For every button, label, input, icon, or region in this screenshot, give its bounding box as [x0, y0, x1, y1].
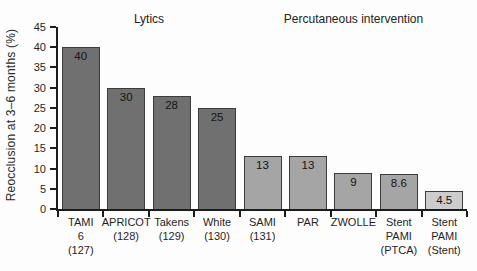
bar-value-label: 30	[108, 91, 144, 104]
bar: 25	[198, 108, 236, 209]
y-tick	[50, 26, 56, 28]
y-tick-label: 15	[16, 142, 46, 154]
group-title-lytics: Lytics	[58, 12, 240, 26]
bar: 40	[62, 47, 100, 209]
y-tick	[50, 87, 56, 89]
bar: 28	[153, 96, 191, 209]
bar-value-label: 25	[199, 111, 235, 124]
bar-value-label: 40	[63, 50, 99, 63]
y-tick-label: 35	[16, 61, 46, 73]
y-tick-label: 20	[16, 122, 46, 134]
y-tick-label: 5	[16, 183, 46, 195]
x-category-label-line: Stent	[414, 215, 475, 229]
y-tick	[50, 147, 56, 149]
y-tick	[50, 168, 56, 170]
bar: 30	[107, 88, 145, 209]
bar-value-label: 9	[335, 176, 371, 189]
y-tick-label: 10	[16, 163, 46, 175]
y-axis-label: Reocclusion at 3–6 months (%)	[4, 29, 18, 202]
y-tick	[50, 188, 56, 190]
x-category-label-line: (131)	[232, 229, 293, 243]
bar-value-label: 13	[290, 159, 326, 172]
y-tick	[50, 66, 56, 68]
group-title-percutaneous-intervention: Percutaneous intervention	[240, 12, 467, 26]
bar: 9	[334, 173, 372, 209]
bar: 13	[244, 156, 282, 209]
y-tick-label: 30	[16, 82, 46, 94]
y-tick	[50, 46, 56, 48]
y-tick	[50, 107, 56, 109]
y-tick	[50, 127, 56, 129]
y-axis-line	[56, 27, 58, 211]
x-category-label: StentPAMI(Stent)	[414, 215, 475, 257]
y-tick-label: 0	[16, 203, 46, 215]
reocclusion-bar-chart: Reocclusion at 3–6 months (%) Lytics Per…	[0, 0, 477, 271]
bar-value-label: 28	[154, 99, 190, 112]
bar: 4.5	[425, 191, 463, 209]
plot-area: 051015202530354045 40302825131398.64.5 T…	[58, 27, 467, 209]
bar-value-label: 13	[245, 159, 281, 172]
y-tick-label: 45	[16, 21, 46, 33]
y-tick-label: 40	[16, 41, 46, 53]
x-axis-line	[56, 209, 467, 211]
bar-value-label: 4.5	[426, 194, 462, 207]
x-category-label-line: (Stent)	[414, 243, 475, 257]
x-category-label-line: PAMI	[414, 229, 475, 243]
y-tick-label: 25	[16, 102, 46, 114]
bar: 13	[289, 156, 327, 209]
bar-value-label: 8.6	[381, 177, 417, 190]
x-category-label-line: (127)	[50, 243, 111, 257]
bar: 8.6	[380, 174, 418, 209]
y-tick	[50, 208, 56, 210]
